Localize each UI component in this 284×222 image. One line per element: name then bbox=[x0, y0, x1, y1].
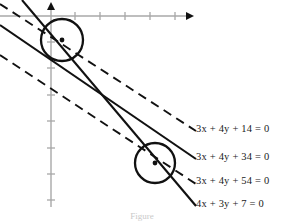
figure-caption: Figure bbox=[0, 211, 284, 221]
equation-label-4: 4x + 3y + 7 = 0 bbox=[196, 198, 264, 209]
equation-label-2: 3x + 4y + 34 = 0 bbox=[196, 151, 269, 162]
x-axis-arrowhead bbox=[186, 12, 194, 20]
figure-container: 3x + 4y + 14 = 0 3x + 4y + 34 = 0 3x + 4… bbox=[0, 0, 284, 222]
line-3x4y34-solid bbox=[0, 25, 196, 159]
axes-group bbox=[0, 2, 194, 207]
line-3x4y54-dashed bbox=[0, 55, 196, 184]
equation-text-3: 3x + 4y + 54 = 0 bbox=[196, 175, 269, 186]
equation-text-1: 3x + 4y + 14 = 0 bbox=[196, 123, 269, 134]
equation-label-3: 3x + 4y + 54 = 0 bbox=[196, 175, 269, 186]
equation-text-2: 3x + 4y + 34 = 0 bbox=[196, 151, 269, 162]
lines-group bbox=[0, 0, 196, 206]
circle-upper-center-dot bbox=[60, 38, 65, 43]
line-3x4y14-dashed bbox=[0, 4, 196, 131]
figure-canvas bbox=[0, 0, 284, 222]
y-axis-arrowhead bbox=[47, 2, 55, 10]
equation-text-4: 4x + 3y + 7 = 0 bbox=[196, 198, 264, 209]
equation-label-1: 3x + 4y + 14 = 0 bbox=[196, 123, 269, 134]
circle-lower-center-dot bbox=[153, 161, 158, 166]
